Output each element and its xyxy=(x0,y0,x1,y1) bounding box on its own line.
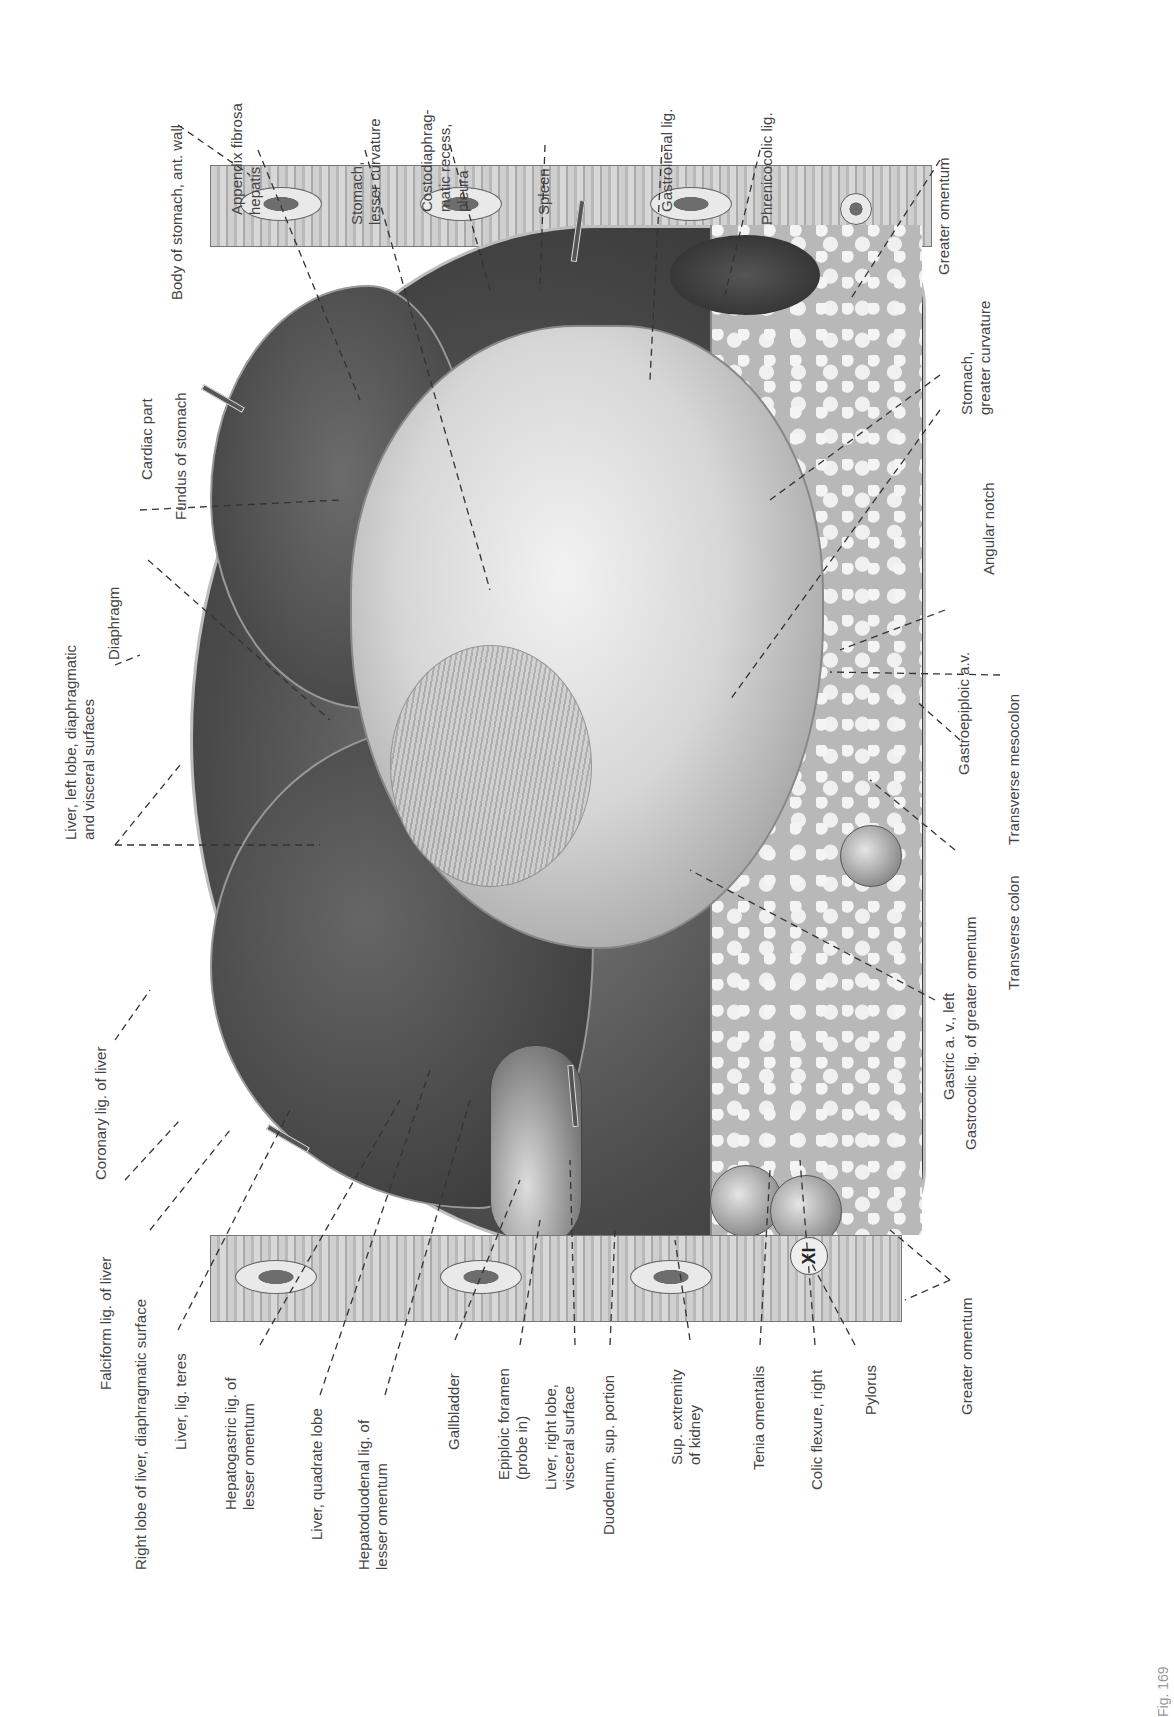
label-appendix-fibrosa: Appendix fibrosa hepatis xyxy=(228,103,264,215)
label-costodiaphragmatic-recess: Costodiaphrag- matic recess, pleura xyxy=(418,109,472,212)
label-liver-right-lobe-visceral: Liver, right lobe, visceral surface xyxy=(542,1384,578,1490)
label-hepatogastric-lig: Hepatogastric lig. of lesser omentum xyxy=(222,1377,258,1510)
rib-cross-section xyxy=(840,193,872,225)
label-falciform-lig: Falciform lig. of liver xyxy=(97,1257,115,1390)
label-phrenicocolic-lig: Phrenicocolic lig. xyxy=(758,112,776,225)
label-gastroepiploic-av: Gastroepiploic a.v. xyxy=(955,652,973,775)
label-stomach-lesser-curvature: Stomach, lesser curvature xyxy=(348,118,384,225)
label-tenia-omentalis: Tenia omentalis xyxy=(750,1366,768,1470)
rib-cross-section xyxy=(630,1260,712,1294)
rib-cross-section xyxy=(235,1260,317,1294)
anatomical-figure: XI xyxy=(0,0,1174,1717)
label-fundus-of-stomach: Fundus of stomach xyxy=(172,392,190,520)
label-cardiac-part: Cardiac part xyxy=(138,398,156,480)
spleen-shape xyxy=(670,235,820,315)
label-right-lobe-liver: Right lobe of liver, diaphragmatic surfa… xyxy=(132,1299,150,1570)
label-liver-quadrate-lobe: Liver, quadrate lobe xyxy=(308,1408,326,1540)
label-spleen: Spleen xyxy=(535,168,553,215)
label-gallbladder: Gallbladder xyxy=(445,1373,463,1450)
abdominal-viscera-illustration: XI xyxy=(150,165,930,1330)
lesser-omentum-shape xyxy=(390,645,592,887)
label-stomach-greater-curvature: Stomach, greater curvature xyxy=(958,301,994,415)
label-gastric-av-left: Gastric a. v., left xyxy=(940,993,958,1100)
label-greater-omentum-bottom: Greater omentum xyxy=(958,1297,976,1415)
label-coronary-lig: Coronary lig. of liver xyxy=(92,1047,110,1180)
label-epiploic-foramen: Epiploic foramen (probe in) xyxy=(495,1368,531,1480)
figure-caption: Fig. 169 xyxy=(1155,1666,1171,1717)
rib-cross-section xyxy=(440,1260,522,1294)
label-liver-lig-teres: Liver, lig. teres xyxy=(172,1353,190,1450)
transverse-colon-shape xyxy=(840,825,902,887)
label-colic-flexure-right: Colic flexure, right xyxy=(808,1370,826,1490)
label-hepatoduodenal-lig: Hepatoduodenal lig. of lesser omentum xyxy=(355,1420,391,1570)
label-sup-extremity-kidney: Sup. extremity of kidney xyxy=(668,1369,704,1465)
label-diaphragm: Diaphragm xyxy=(105,587,123,660)
label-body-of-stomach: Body of stomach, ant. wall xyxy=(168,125,186,300)
label-angular-notch: Angular notch xyxy=(980,482,998,575)
rib-xi-marker: XI xyxy=(790,1237,828,1275)
label-liver-left-lobe: Liver, left lobe, diaphragmatic and visc… xyxy=(62,645,98,840)
label-gastrocolic-lig: Gastrocolic lig. of greater omentum xyxy=(962,917,980,1150)
label-pylorus: Pylorus xyxy=(862,1365,880,1415)
label-duodenum-sup-portion: Duodenum, sup. portion xyxy=(600,1375,618,1535)
label-transverse-mesocolon: Transverse mesocolon xyxy=(1005,694,1023,845)
label-transverse-colon: Transverse colon xyxy=(1005,876,1023,991)
label-gastrolienal-lig: Gastrolienal lig. xyxy=(658,109,676,212)
label-greater-omentum-top: Greater omentum xyxy=(935,157,953,275)
